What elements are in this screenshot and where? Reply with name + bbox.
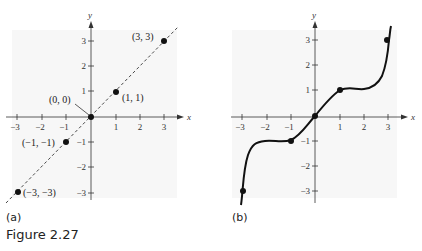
panel-b-plot: x y −3 −2 −1 1 2 3 3 2 1 −1 −2 −3 [231,10,415,205]
svg-text:−3: −3 [76,188,86,198]
svg-text:1: 1 [82,86,87,96]
svg-text:3: 3 [386,122,391,132]
svg-text:3: 3 [306,35,311,45]
panel-b-x-label: x [410,112,415,122]
svg-text:3: 3 [82,36,87,46]
svg-text:(−1, −1): (−1, −1) [22,137,55,149]
svg-text:1: 1 [338,122,343,132]
point-neg1-neg1 [288,138,294,144]
point-3-3 [161,38,167,44]
svg-text:−2: −2 [300,161,310,171]
svg-text:−1: −1 [284,122,294,132]
svg-text:2: 2 [138,122,143,132]
panel-a-label: (a) [6,211,21,224]
figure-caption: Figure 2.27 [6,227,79,242]
svg-text:(3, 3): (3, 3) [132,31,154,43]
svg-text:−1: −1 [76,137,86,147]
svg-text:1: 1 [114,122,119,132]
panel-a-plot: x y −3 −2 −1 1 2 3 3 2 1 −1 −2 −3 [6,10,191,203]
svg-text:−2: −2 [260,122,270,132]
svg-text:(0, 0): (0, 0) [49,94,71,106]
svg-text:−2: −2 [35,122,45,132]
svg-text:(1, 1): (1, 1) [122,92,144,104]
svg-text:3: 3 [162,122,167,132]
point-neg3-neg3 [240,188,246,194]
svg-text:−3: −3 [10,122,20,132]
panel-a-background [12,30,177,198]
svg-text:−1: −1 [300,136,310,146]
svg-text:−2: −2 [76,162,86,172]
point-neg3-neg3 [15,189,21,195]
svg-text:2: 2 [362,122,367,132]
svg-text:1: 1 [306,85,311,95]
point-1-1 [337,87,343,93]
panel-a-x-label: x [186,112,191,122]
panel-b-y-label: y [311,10,316,20]
panel-b-x-arrow-icon [401,115,408,120]
svg-text:2: 2 [82,61,87,71]
point-neg1-neg1 [63,139,69,145]
point-3-3 [384,37,390,43]
point-0-0 [312,113,318,119]
svg-text:−3: −3 [235,122,245,132]
panel-a-x-arrow-icon [177,115,184,120]
panel-b-y-arrow-icon [313,21,318,28]
svg-text:−3: −3 [300,186,310,196]
panel-a-y-label: y [87,10,92,20]
panel-b-label: (b) [232,211,248,224]
figure-canvas: x y −3 −2 −1 1 2 3 3 2 1 −1 −2 −3 [0,0,422,251]
panel-a-y-arrow-icon [89,21,94,28]
svg-text:(−3, −3): (−3, −3) [23,187,56,199]
point-1-1 [113,89,119,95]
svg-text:2: 2 [306,60,311,70]
svg-text:−1: −1 [59,122,69,132]
